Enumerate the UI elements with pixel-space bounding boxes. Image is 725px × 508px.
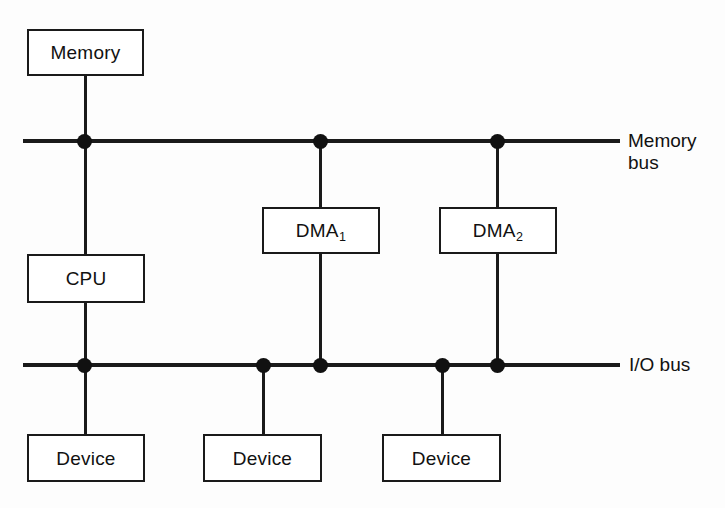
memory-box[interactable]: Memory	[27, 29, 144, 76]
connector-membus-to-dma2	[496, 141, 499, 209]
device3-box-label: Device	[412, 449, 471, 468]
device1-box[interactable]: Device	[27, 434, 145, 482]
memory-bus-label: Memory bus	[628, 130, 697, 175]
cpu-box-label: CPU	[66, 269, 107, 288]
connector-iobus-to-device1	[84, 365, 87, 435]
diagram-canvas: Memory CPU DMA1 DMA2 Device Device Devic…	[0, 0, 725, 508]
dma2-box[interactable]: DMA2	[439, 207, 557, 254]
junction-dot-memory-membus	[77, 134, 92, 149]
connector-membus-to-cpu	[84, 141, 87, 255]
junction-dot-device3-iobus	[435, 358, 450, 373]
connector-memory-to-membus	[84, 75, 87, 143]
dma1-box-label: DMA1	[296, 221, 347, 240]
junction-dot-dma1-iobus	[313, 358, 328, 373]
connector-iobus-to-device2	[262, 365, 265, 435]
cpu-box[interactable]: CPU	[27, 254, 145, 303]
junction-dot-device2-iobus	[256, 358, 271, 373]
device2-box[interactable]: Device	[203, 434, 322, 482]
junction-dot-dma1-membus	[313, 134, 328, 149]
connector-membus-to-dma1	[319, 141, 322, 209]
device1-box-label: Device	[56, 449, 115, 468]
dma2-box-label: DMA2	[473, 221, 524, 240]
device2-box-label: Device	[233, 449, 292, 468]
connector-iobus-to-device3	[441, 365, 444, 435]
dma1-subscript: 1	[339, 230, 346, 244]
connector-dma1-to-iobus	[319, 253, 322, 367]
io-bus-label: I/O bus	[629, 354, 690, 376]
device3-box[interactable]: Device	[382, 434, 501, 482]
dma2-subscript: 2	[516, 230, 523, 244]
connector-dma2-to-iobus	[496, 253, 499, 367]
dma1-box[interactable]: DMA1	[262, 207, 380, 254]
memory-box-label: Memory	[51, 43, 121, 62]
junction-dot-dma2-iobus	[490, 358, 505, 373]
junction-dot-cpu-iobus	[77, 358, 92, 373]
junction-dot-dma2-membus	[490, 134, 505, 149]
